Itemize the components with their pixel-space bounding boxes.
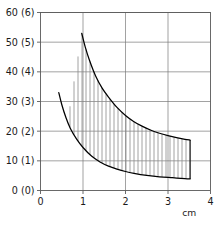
grid-lines: [41, 13, 211, 191]
x-axis-tick-label: 0: [37, 196, 43, 207]
y-axis-tick-label: 0 (0): [12, 185, 35, 196]
y-axis-tick-label: 40 (4): [6, 66, 35, 77]
y-axis-tick-label: 10 (1): [6, 155, 35, 166]
data-curves: [59, 33, 190, 179]
x-axis-tick-label: 4: [207, 196, 213, 207]
axis-ticks: [37, 13, 211, 195]
x-axis-tick-label: 3: [165, 196, 171, 207]
y-axis-tick-label: 20 (2): [6, 126, 35, 137]
y-axis-tick-label: 30 (3): [6, 96, 35, 107]
y-axis-tick-label: 60 (6): [6, 7, 35, 18]
y-axis-tick-label: 50 (5): [6, 37, 35, 48]
x-axis-tick-label: 1: [80, 196, 86, 207]
x-axis-tick-label: 2: [122, 196, 128, 207]
x-axis-unit-label: cm: [182, 207, 196, 218]
chart-container: 0 (0)10 (1)20 (2)30 (3)40 (4)50 (5)60 (6…: [0, 0, 223, 226]
chart-plot: 0 (0)10 (1)20 (2)30 (3)40 (4)50 (5)60 (6…: [0, 0, 223, 226]
